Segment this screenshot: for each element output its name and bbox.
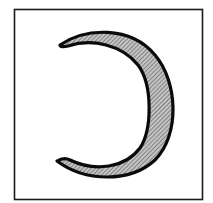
crescent-moon-icon (57, 32, 173, 177)
crescent-figure (0, 0, 213, 203)
figure-canvas (0, 0, 213, 203)
